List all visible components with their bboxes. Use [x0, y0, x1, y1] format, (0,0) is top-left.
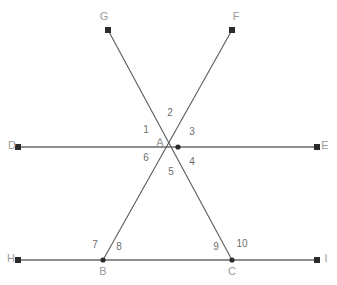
point-label-c: C	[228, 265, 236, 277]
point-label-i: I	[324, 252, 327, 264]
point-label-e: E	[321, 139, 328, 151]
segment-f-b	[103, 30, 232, 260]
vertex-dot-a	[175, 144, 180, 149]
arrow-cap-i	[314, 257, 320, 263]
segment-g-c	[108, 30, 232, 260]
vertex-dot-b	[100, 257, 105, 262]
point-label-f: F	[233, 10, 240, 22]
angle-label-8: 8	[116, 241, 122, 252]
angle-label-10: 10	[236, 238, 248, 249]
angle-label-2: 2	[167, 107, 173, 118]
point-label-b: B	[99, 265, 106, 277]
point-label-g: G	[100, 10, 109, 22]
angle-label-9: 9	[213, 241, 219, 252]
vertex-dot-c	[229, 257, 234, 262]
arrow-cap-e	[314, 144, 320, 150]
angle-label-3: 3	[189, 126, 195, 137]
point-label-h: H	[7, 252, 15, 264]
arrow-cap-g	[105, 27, 111, 33]
point-label-a: A	[156, 136, 164, 148]
point-label-d: D	[8, 139, 16, 151]
angle-label-1: 1	[143, 124, 149, 135]
angle-label-5: 5	[168, 166, 174, 177]
arrow-cap-h	[15, 257, 21, 263]
figure-canvas: G F D E A H I B C 1 2 3 4 5 6 7 8 9 10	[0, 0, 337, 285]
angle-label-6: 6	[143, 152, 149, 163]
angle-label-7: 7	[92, 239, 98, 250]
geometry-diagram: G F D E A H I B C 1 2 3 4 5 6 7 8 9 10	[0, 0, 337, 285]
arrow-cap-f	[229, 27, 235, 33]
angle-label-4: 4	[189, 156, 195, 167]
